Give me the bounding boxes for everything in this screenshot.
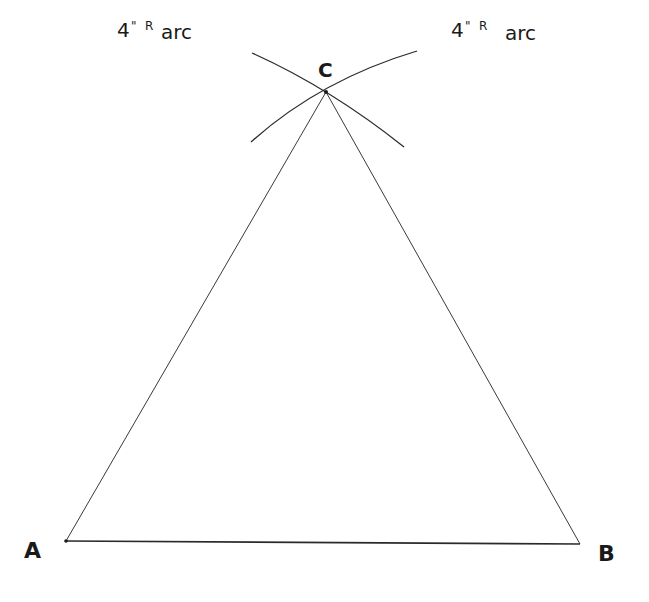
arc-right-radius: 4 bbox=[451, 18, 464, 42]
edge-ab bbox=[66, 541, 580, 544]
arc-label-left: 4 " R arc bbox=[117, 18, 192, 44]
vertex-label-a: A bbox=[24, 538, 41, 563]
vertex-label-c: C bbox=[318, 58, 333, 82]
vertex-a-point bbox=[64, 539, 68, 543]
edge-bc bbox=[326, 92, 580, 544]
arc-label-right: 4 " R arc bbox=[451, 18, 536, 45]
arc-left-word: arc bbox=[161, 20, 192, 44]
arc-right-r: R bbox=[479, 19, 487, 33]
arc-left-radius: 4 bbox=[117, 18, 130, 42]
arc-right-inch-mark: " bbox=[465, 19, 471, 33]
arc-left-inch-mark: " bbox=[131, 19, 137, 33]
edge-ac bbox=[66, 92, 326, 541]
vertex-c-point bbox=[324, 90, 328, 94]
construction-diagram: A B C 4 " R arc 4 " R arc bbox=[0, 0, 649, 602]
vertex-label-b: B bbox=[598, 541, 615, 566]
arc-right-word: arc bbox=[505, 21, 536, 45]
arc-left-r: R bbox=[145, 19, 153, 33]
